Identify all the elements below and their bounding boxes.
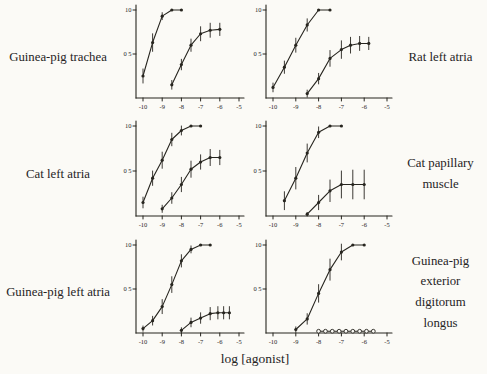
plot-cell-cat-papillary-muscle: 0 510-10-9-8-7-6-5: [246, 114, 394, 234]
plot-guinea-pig-left-atria: 0 510-10-9-8-7-6-5: [116, 237, 246, 347]
panel-label-guinea-pig-trachea: Guinea-pig trachea: [0, 0, 116, 114]
plot-cell-rat-left-atria: 0 510-10-9-8-7-6-5: [246, 0, 394, 114]
plot-cat-papillary-muscle: 0 510-10-9-8-7-6-5: [246, 118, 394, 230]
panel-label-cat-left-atria: Cat left atria: [0, 114, 116, 234]
svg-text:10: 10: [255, 6, 262, 13]
figure-grid: Guinea-pig trachea 0 510-10-9-8-7-6-5 0 …: [0, 0, 487, 374]
x-axis-label: log [agonist]: [116, 350, 394, 374]
svg-text:-8: -8: [179, 338, 184, 345]
svg-text:-6: -6: [361, 338, 367, 345]
svg-text:-10: -10: [269, 338, 278, 345]
svg-text:-7: -7: [198, 338, 204, 345]
svg-text:0 5: 0 5: [253, 50, 261, 57]
svg-text:-9: -9: [159, 221, 164, 228]
plot-cell-guinea-pig-exterior-digitorum-longus: 0 510-10-9-8-7-6-5: [246, 234, 394, 350]
svg-text:-6: -6: [217, 338, 223, 345]
svg-text:-8: -8: [316, 338, 321, 345]
plot-rat-left-atria: 0 510-10-9-8-7-6-5: [246, 2, 394, 112]
svg-text:-9: -9: [293, 103, 298, 110]
svg-text:-9: -9: [293, 338, 298, 345]
figure-page: Guinea-pig trachea 0 510-10-9-8-7-6-5 0 …: [0, 0, 487, 374]
svg-text:0 5: 0 5: [123, 50, 131, 57]
svg-text:-6: -6: [217, 103, 223, 110]
svg-text:-7: -7: [339, 338, 345, 345]
panel-label-guinea-pig-left-atria: Guinea-pig left atria: [0, 234, 116, 350]
plot-cell-guinea-pig-left-atria: 0 510-10-9-8-7-6-5: [116, 234, 246, 350]
svg-text:-5: -5: [236, 338, 241, 345]
svg-text:-10: -10: [139, 338, 148, 345]
svg-text:-10: -10: [269, 103, 278, 110]
svg-text:-8: -8: [179, 221, 184, 228]
svg-text:-10: -10: [139, 221, 148, 228]
svg-text:-9: -9: [293, 221, 298, 228]
svg-text:-9: -9: [159, 338, 164, 345]
svg-text:-7: -7: [198, 221, 204, 228]
svg-text:-7: -7: [339, 103, 345, 110]
panel-label-guinea-pig-exterior-digitorum-longus: Guinea-pig exterior digitorum longus: [394, 234, 487, 350]
svg-text:10: 10: [255, 122, 262, 129]
svg-text:0 5: 0 5: [123, 167, 131, 174]
plot-guinea-pig-exterior-digitorum-longus: 0 510-10-9-8-7-6-5: [246, 237, 394, 347]
svg-text:10: 10: [255, 241, 262, 248]
svg-text:-8: -8: [316, 221, 321, 228]
svg-text:-6: -6: [217, 221, 223, 228]
svg-text:-8: -8: [179, 103, 184, 110]
svg-text:-6: -6: [361, 221, 367, 228]
plot-cat-left-atria: 0 510-10-9-8-7-6-5: [116, 118, 246, 230]
svg-text:-7: -7: [339, 221, 345, 228]
panel-label-cat-papillary-muscle: Cat papillary muscle: [394, 114, 487, 234]
svg-text:10: 10: [125, 6, 132, 13]
svg-text:-8: -8: [316, 103, 321, 110]
svg-text:0 5: 0 5: [253, 285, 261, 292]
svg-text:-5: -5: [384, 221, 389, 228]
svg-text:-5: -5: [384, 103, 389, 110]
panel-label-rat-left-atria: Rat left atria: [394, 0, 487, 114]
svg-text:-5: -5: [236, 221, 241, 228]
svg-text:10: 10: [125, 122, 132, 129]
svg-text:0 5: 0 5: [253, 167, 261, 174]
svg-text:-5: -5: [384, 338, 389, 345]
svg-text:-5: -5: [236, 103, 241, 110]
svg-text:-7: -7: [198, 103, 204, 110]
svg-text:-6: -6: [361, 103, 367, 110]
svg-text:-10: -10: [269, 221, 278, 228]
plot-cell-cat-left-atria: 0 510-10-9-8-7-6-5: [116, 114, 246, 234]
svg-text:10: 10: [125, 241, 132, 248]
plot-cell-guinea-pig-trachea: 0 510-10-9-8-7-6-5: [116, 0, 246, 114]
plot-guinea-pig-trachea: 0 510-10-9-8-7-6-5: [116, 2, 246, 112]
svg-text:-10: -10: [139, 103, 148, 110]
svg-text:0 5: 0 5: [123, 285, 131, 292]
svg-text:-9: -9: [159, 103, 164, 110]
